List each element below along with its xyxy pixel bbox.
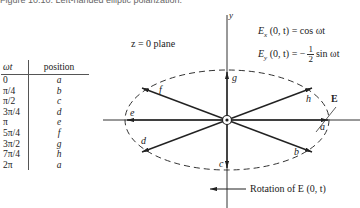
eq-ey-fraction: 12 xyxy=(307,45,314,64)
eq-ey-rhs: (0, t) = − xyxy=(267,48,305,59)
label-a: a xyxy=(320,121,325,132)
eq-ey-den: 2 xyxy=(307,55,314,64)
label-f: f xyxy=(159,84,162,95)
vector-d xyxy=(142,120,227,152)
vector-b xyxy=(227,120,312,152)
vector-h xyxy=(227,88,312,120)
label-c: c xyxy=(219,158,223,169)
label-g: g xyxy=(232,72,237,83)
equation-ey: Ey (0, t) = −12sin ωt xyxy=(258,45,339,64)
label-d: d xyxy=(141,135,146,146)
plane-label: z = 0 plane xyxy=(131,38,175,49)
eq-ex-rhs: (0, t) = cos ωt xyxy=(267,25,325,36)
vector-e-label: E xyxy=(331,93,338,104)
y-axis-label: y xyxy=(229,10,233,20)
rotation-label: Rotation of E (0, t) xyxy=(250,183,326,194)
eq-ey-tail: sin ωt xyxy=(316,48,340,59)
label-h: h xyxy=(306,93,311,104)
vector-f xyxy=(142,88,227,120)
label-b: b xyxy=(294,146,299,157)
label-e: e xyxy=(130,107,134,118)
equation-ex: Ex (0, t) = cos ωt xyxy=(258,25,325,39)
